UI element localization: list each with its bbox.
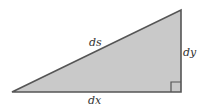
triangle-shape [12, 10, 181, 92]
vertical-leg-label: dy [183, 46, 197, 59]
horizontal-leg-label: dx [88, 94, 102, 107]
triangle-svg: ds dy dx [0, 0, 201, 109]
hypotenuse-label: ds [89, 36, 102, 49]
arc-length-triangle-diagram: ds dy dx [0, 0, 201, 109]
